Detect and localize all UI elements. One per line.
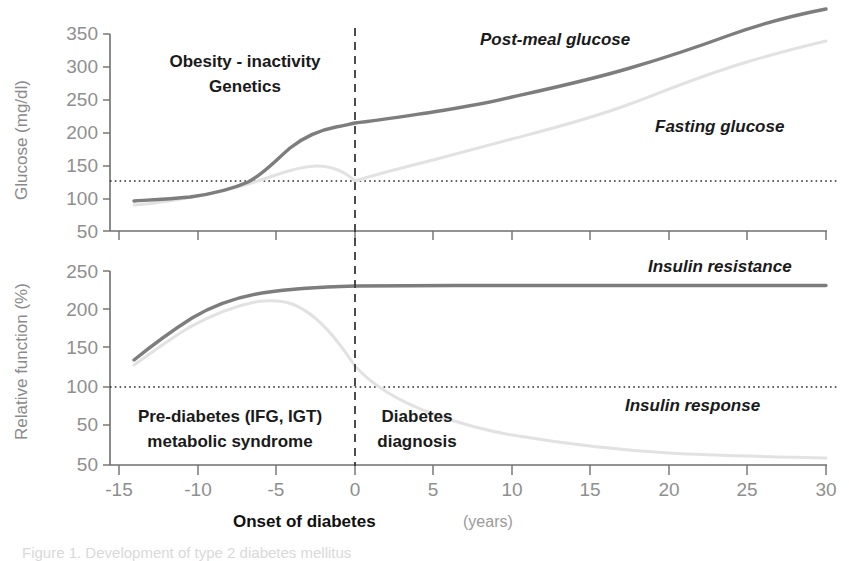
relative-function-x-ticks bbox=[119, 465, 826, 475]
x-tick-label: 10 bbox=[501, 479, 522, 500]
y-tick-label: 200 bbox=[66, 122, 98, 143]
y-tick-label: 50 bbox=[77, 454, 98, 475]
series-label-insulin-response: Insulin response bbox=[625, 396, 760, 415]
x-tick-label: -15 bbox=[105, 479, 132, 500]
y-tick-label: 250 bbox=[66, 89, 98, 110]
y-tick-label: 250 bbox=[66, 261, 98, 282]
series-label-fasting-glucose: Fasting glucose bbox=[655, 117, 784, 136]
x-tick-labels: -15 -10 -5 0 5 10 15 20 25 30 bbox=[105, 479, 836, 500]
x-tick-label: -5 bbox=[268, 479, 285, 500]
relative-function-y-axis-title: Relative function (%) bbox=[12, 283, 31, 440]
x-tick-label: 30 bbox=[815, 479, 836, 500]
x-axis-unit-label: (years) bbox=[463, 513, 513, 530]
series-label-insulin-resistance: Insulin resistance bbox=[648, 257, 792, 276]
y-tick-label: 200 bbox=[66, 299, 98, 320]
y-tick-label: 100 bbox=[66, 188, 98, 209]
glucose-y-tick-labels: 350 300 250 200 150 100 50 bbox=[66, 23, 98, 242]
figure-caption: Figure 1. Development of type 2 diabetes… bbox=[22, 544, 351, 561]
y-tick-label: 300 bbox=[66, 56, 98, 77]
y-tick-label: 150 bbox=[66, 155, 98, 176]
x-tick-label: 15 bbox=[579, 479, 600, 500]
glucose-y-ticks bbox=[103, 34, 110, 231]
annotation-diabetes-diagnosis-line1: Diabetes bbox=[382, 407, 453, 426]
x-tick-label: 0 bbox=[350, 479, 361, 500]
y-tick-label: 350 bbox=[66, 23, 98, 44]
diabetes-progression-chart: Glucose (mg/dl) 350 300 250 200 150 100 … bbox=[0, 0, 849, 561]
relative-function-y-ticks bbox=[103, 271, 110, 465]
series-label-post-meal-glucose: Post-meal glucose bbox=[480, 30, 630, 49]
y-tick-label: 50 bbox=[77, 221, 98, 242]
y-tick-label: 150 bbox=[66, 337, 98, 358]
annotation-risk-factors-line2: Genetics bbox=[209, 77, 281, 96]
glucose-panel: Glucose (mg/dl) 350 300 250 200 150 100 … bbox=[12, 9, 838, 242]
x-tick-label: 20 bbox=[658, 479, 679, 500]
x-tick-label: 5 bbox=[428, 479, 439, 500]
x-tick-label: 25 bbox=[736, 479, 757, 500]
glucose-x-ticks bbox=[119, 231, 826, 240]
annotation-prediabetes-line1: Pre-diabetes (IFG, IGT) bbox=[138, 407, 322, 426]
figure-container: Glucose (mg/dl) 350 300 250 200 150 100 … bbox=[0, 0, 849, 561]
y-tick-label: 50 bbox=[77, 414, 98, 435]
annotation-diabetes-diagnosis-line2: diagnosis bbox=[377, 432, 456, 451]
relative-function-y-tick-labels: 250 200 150 100 50 50 bbox=[66, 261, 98, 475]
y-tick-label: 100 bbox=[66, 376, 98, 397]
x-axis-title: Onset of diabetes bbox=[233, 512, 376, 531]
relative-function-panel: Relative function (%) 250 200 150 100 50… bbox=[12, 257, 838, 475]
insulin-resistance-curve bbox=[134, 286, 826, 361]
x-tick-label: -10 bbox=[184, 479, 211, 500]
glucose-y-axis-title: Glucose (mg/dl) bbox=[12, 80, 31, 200]
annotation-prediabetes-line2: metabolic syndrome bbox=[147, 432, 312, 451]
annotation-risk-factors-line1: Obesity - inactivity bbox=[169, 52, 321, 71]
